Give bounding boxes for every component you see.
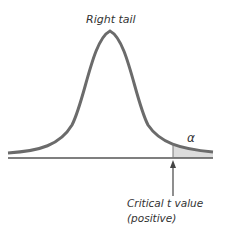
critical-value-sign-label: (positive): [127, 212, 176, 224]
chart-title: Right tail: [86, 13, 136, 26]
critical-value-label: Critical t value: [127, 197, 203, 209]
alpha-label: α: [187, 131, 195, 145]
distribution-curve: [8, 31, 213, 153]
arrow-up-icon: [170, 160, 176, 168]
